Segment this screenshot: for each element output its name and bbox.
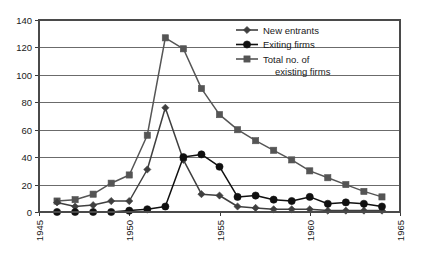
data-point-square	[126, 172, 132, 178]
data-point-circle	[198, 151, 205, 158]
data-point-circle	[378, 203, 385, 210]
x-tick-label: 1965	[395, 220, 406, 241]
y-tick-label: 140	[16, 15, 32, 26]
data-point-square	[307, 168, 313, 174]
data-point-circle	[180, 154, 187, 161]
data-point-circle	[234, 193, 241, 200]
data-point-circle	[216, 163, 223, 170]
legend-label: Exiting firms	[263, 39, 315, 50]
data-point-square	[180, 46, 186, 52]
data-point-circle	[270, 196, 277, 203]
data-point-circle	[252, 192, 259, 199]
x-tick-label: 1960	[305, 220, 316, 241]
y-tick-label: 20	[21, 180, 32, 191]
line-chart: 020406080100120140 19451950195519601965 …	[0, 0, 431, 260]
x-tick-label: 1955	[215, 220, 226, 241]
data-point-square	[216, 112, 222, 118]
data-point-circle	[288, 197, 295, 204]
x-axis-tick-labels: 19451950195519601965	[34, 220, 406, 241]
x-tick-label: 1950	[124, 220, 135, 241]
y-tick-label: 40	[21, 152, 32, 163]
data-point-square	[198, 85, 204, 91]
data-point-square	[72, 197, 78, 203]
legend-label: New entrants	[263, 25, 319, 36]
y-tick-label: 0	[27, 207, 32, 218]
data-point-square	[108, 180, 114, 186]
data-point-square	[244, 56, 250, 62]
y-axis-tick-labels: 020406080100120140	[16, 15, 32, 218]
data-point-square	[144, 132, 150, 138]
data-point-circle	[243, 41, 250, 48]
y-tick-label: 120	[16, 42, 32, 53]
data-point-square	[361, 188, 367, 194]
x-tick-label: 1945	[34, 220, 45, 241]
data-point-square	[271, 147, 277, 153]
legend-label-continued: existing firms	[275, 66, 331, 77]
data-point-square	[234, 127, 240, 133]
data-point-square	[289, 157, 295, 163]
data-point-square	[379, 194, 385, 200]
data-point-square	[253, 138, 259, 144]
data-point-square	[162, 35, 168, 41]
chart-figure: 020406080100120140 19451950195519601965 …	[0, 0, 431, 260]
legend-label: Total no. of	[263, 54, 310, 65]
data-point-circle	[360, 200, 367, 207]
data-point-circle	[162, 203, 169, 210]
data-point-circle	[324, 200, 331, 207]
data-point-square	[325, 175, 331, 181]
y-tick-label: 80	[21, 97, 32, 108]
data-point-square	[343, 181, 349, 187]
data-point-square	[90, 191, 96, 197]
data-point-circle	[342, 199, 349, 206]
data-point-circle	[126, 207, 133, 214]
y-tick-label: 60	[21, 125, 32, 136]
y-tick-label: 100	[16, 70, 32, 81]
data-point-circle	[306, 193, 313, 200]
